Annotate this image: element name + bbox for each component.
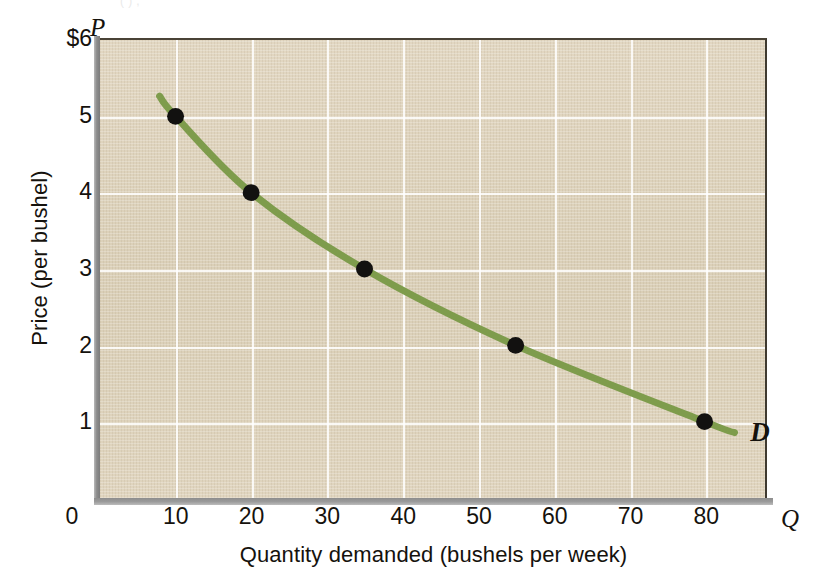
x-tick-80: 80 bbox=[676, 505, 736, 528]
data-point-80-1 bbox=[696, 413, 713, 430]
x-axis-line bbox=[94, 498, 773, 505]
x-tick-70: 70 bbox=[601, 505, 661, 528]
x-tick-50: 50 bbox=[449, 505, 509, 528]
plot-area: D bbox=[100, 38, 767, 498]
x-tick-20: 20 bbox=[222, 505, 282, 528]
x-tick-40: 40 bbox=[373, 505, 433, 528]
demand-curve-svg bbox=[100, 40, 765, 498]
demand-curve-figure: ( ) , $6 5 4 3 2 1 P Price (per bushel) bbox=[0, 0, 818, 581]
plot-area-wrapper: D bbox=[100, 38, 767, 498]
x-tick-10: 10 bbox=[146, 505, 206, 528]
data-point-10-5 bbox=[167, 108, 184, 125]
x-tick-30: 30 bbox=[297, 505, 357, 528]
demand-curve-label: D bbox=[750, 417, 770, 448]
x-axis-title: Quantity demanded (bushels per week) bbox=[100, 542, 767, 568]
y-tick-6: $6 bbox=[32, 27, 92, 50]
demand-curve bbox=[160, 96, 735, 432]
y-axis-title: Price (per bushel) bbox=[27, 48, 53, 468]
quantity-axis-symbol: Q bbox=[781, 505, 799, 533]
data-point-55-2 bbox=[507, 337, 524, 354]
data-point-20-4 bbox=[243, 184, 260, 201]
x-tick-0: 0 bbox=[42, 505, 102, 528]
data-point-35-3 bbox=[356, 261, 373, 278]
x-tick-60: 60 bbox=[525, 505, 585, 528]
x-axis-tick-labels: 0 10 20 30 40 50 60 70 80 bbox=[100, 505, 767, 535]
page-bleed-text: ( ) , bbox=[0, 0, 818, 8]
